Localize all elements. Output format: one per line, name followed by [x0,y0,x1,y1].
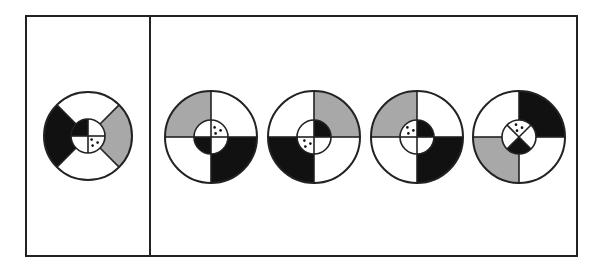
answer-option-3[interactable] [371,91,463,183]
figures-group [44,91,565,183]
dot-icon [515,123,518,126]
dot-icon [407,132,410,135]
question-figure [44,92,132,180]
dot-icon [213,126,216,129]
answer-option-4[interactable] [473,91,565,183]
dot-icon [412,129,415,132]
dot-icon [521,126,524,129]
dot-icon [90,138,93,141]
dot-icon [303,139,306,142]
dot-icon [309,142,312,145]
dot-icon [91,144,94,147]
dot-icon [406,126,409,129]
answer-option-1[interactable] [165,91,257,183]
dot-icon [219,129,222,132]
dot-icon [96,141,99,144]
dot-icon [516,129,519,132]
answer-option-2[interactable] [268,91,360,183]
dot-icon [214,132,217,135]
puzzle-canvas [0,0,604,270]
dot-icon [304,145,307,148]
